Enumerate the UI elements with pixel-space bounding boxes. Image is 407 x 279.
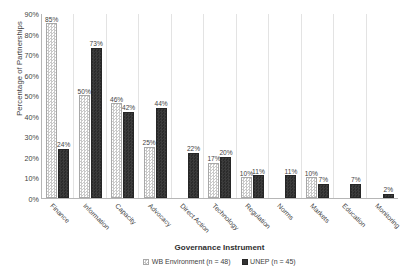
bar-slot: 11% [285, 175, 296, 198]
bar-slot: 44% [156, 108, 167, 198]
category-band: 10%7% [302, 14, 334, 198]
bar-value-label: 20% [219, 150, 232, 157]
bar-unep[interactable]: 44% [156, 108, 167, 198]
x-axis-title: Governance Instrument [41, 243, 398, 252]
bar-value-label: 11% [285, 169, 298, 176]
bar-unep[interactable]: 11% [285, 175, 296, 198]
bar-group: 10%11% [237, 14, 268, 198]
bar-chart-figure: Percentage of Partnerships 90%80%70%60%5… [0, 0, 407, 279]
x-axis-tick-cell: Capacity [106, 200, 138, 244]
bar-unep[interactable]: 7% [350, 184, 361, 198]
bar-group: 17%20% [204, 14, 235, 198]
x-axis-tick-label: Capacity [114, 202, 138, 226]
bar-slot: 2% [383, 194, 394, 198]
category-band: 85%24% [42, 14, 74, 198]
bar-value-label: 2% [383, 187, 393, 194]
bar-value-label: 73% [90, 41, 103, 48]
bar-value-label: 22% [187, 146, 200, 153]
bar-value-label: 10% [240, 171, 253, 178]
bar-unep[interactable]: 20% [220, 157, 231, 198]
x-axis-tick-label: Finance [49, 202, 71, 224]
bar-wb[interactable]: 50% [79, 95, 90, 198]
category-bands: 85%24%50%73%46%42%25%44%22%17%20%10%11%1… [42, 14, 398, 198]
x-axis-tick-label: Monitoring [374, 202, 401, 229]
x-axis-tick-label: Markets [309, 202, 331, 224]
legend-item-label: WB Environment (n = 48) [152, 258, 231, 265]
category-band: 25%44% [139, 14, 171, 198]
bar-unep[interactable]: 7% [318, 184, 329, 198]
bar-slot: 7% [318, 184, 329, 198]
bar-slot: 10% [241, 177, 252, 198]
x-axis-tick-cell: Direct Action [171, 200, 203, 244]
x-axis-tick-cell: Monitoring [366, 200, 398, 244]
bar-value-label: 42% [122, 105, 135, 112]
x-axis-tick-cell: Finance [41, 200, 73, 244]
y-axis-tick-label: 20% [13, 153, 39, 162]
bar-wb[interactable]: 17% [208, 163, 219, 198]
bar-slot: 11% [253, 175, 264, 198]
bar-unep[interactable]: 11% [253, 175, 264, 198]
bar-unep[interactable]: 73% [91, 48, 102, 198]
bar-slot: 20% [220, 157, 231, 198]
y-axis-tick-label: 40% [13, 112, 39, 121]
bar-unep[interactable]: 22% [188, 153, 199, 198]
x-axis-tick-cell: Norms [268, 200, 300, 244]
bar-group: 25%44% [139, 14, 170, 198]
x-axis-tick-cell: Education [333, 200, 365, 244]
y-axis-tick-label: 30% [13, 133, 39, 142]
bar-group: 7% [334, 14, 365, 198]
bar-group: 85%24% [42, 14, 73, 198]
y-axis-tick-label: 50% [13, 92, 39, 101]
y-axis-tick-labels: 90%80%70%60%50%40%30%20%10%0% [13, 14, 39, 199]
x-axis-tick-cell: Information [73, 200, 105, 244]
legend-item-wb[interactable]: WB Environment (n = 48) [143, 258, 230, 265]
bar-slot: 42% [123, 112, 134, 198]
bar-wb[interactable]: 85% [46, 23, 57, 198]
x-axis-tick-label: Education [341, 202, 367, 228]
bar-slot: 7% [350, 184, 361, 198]
legend-item-label: UNEP (n = 45) [250, 258, 296, 265]
legend-item-unep[interactable]: UNEP (n = 45) [242, 258, 296, 265]
x-axis-tick-cell: Markets [301, 200, 333, 244]
category-band: 10%11% [237, 14, 269, 198]
category-band: 2% [367, 14, 398, 198]
bar-slot: 17% [208, 163, 219, 198]
bar-value-label: 24% [57, 142, 70, 149]
bar-unep[interactable]: 42% [123, 112, 134, 198]
bar-slot: 85% [46, 23, 57, 198]
bar-value-label: 46% [110, 97, 123, 104]
x-axis-tick-label: Advocacy [147, 202, 173, 228]
bar-wb[interactable]: 46% [111, 103, 122, 198]
category-band: 22% [172, 14, 204, 198]
bar-value-label: 11% [252, 169, 265, 176]
bar-value-label: 7% [351, 177, 361, 184]
plot-area: 85%24%50%73%46%42%25%44%22%17%20%10%11%1… [41, 14, 398, 199]
bar-group: 11% [269, 14, 300, 198]
bar-group: 2% [367, 14, 398, 198]
legend-swatch-icon [143, 259, 149, 265]
bar-slot: 73% [91, 48, 102, 198]
bar-group: 10%7% [302, 14, 333, 198]
bar-value-label: 10% [305, 171, 318, 178]
y-axis-tick-label: 70% [13, 51, 39, 60]
bar-group: 22% [172, 14, 203, 198]
bar-group: 46%42% [107, 14, 138, 198]
bar-value-label: 7% [319, 177, 329, 184]
chart-legend: WB Environment (n = 48)UNEP (n = 45) [41, 258, 398, 265]
bar-slot: 50% [79, 95, 90, 198]
bar-wb[interactable]: 10% [241, 177, 252, 198]
category-band: 50%73% [74, 14, 106, 198]
bar-unep[interactable]: 24% [58, 149, 69, 198]
bar-wb[interactable]: 10% [306, 177, 317, 198]
x-axis-tick-label: Norms [276, 202, 295, 221]
category-band: 7% [334, 14, 366, 198]
bar-value-label: 17% [207, 156, 220, 163]
bar-slot: 24% [58, 149, 69, 198]
y-axis-tick-label: 80% [13, 30, 39, 39]
bar-value-label: 25% [142, 140, 155, 147]
y-axis-tick-label: 0% [13, 195, 39, 204]
bar-slot: 10% [306, 177, 317, 198]
bar-unep[interactable]: 2% [383, 194, 394, 198]
bar-wb[interactable]: 25% [144, 147, 155, 198]
category-band: 17%20% [204, 14, 236, 198]
